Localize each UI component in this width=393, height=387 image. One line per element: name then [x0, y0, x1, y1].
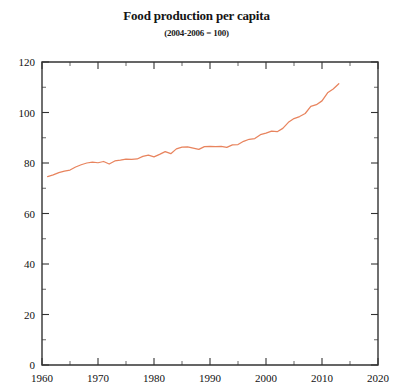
y-minor-ticks	[42, 87, 378, 340]
series-line	[48, 84, 339, 177]
x-tick-label: 1970	[87, 372, 110, 384]
data-series-group	[48, 84, 339, 177]
axis-frame	[42, 62, 378, 365]
y-major-ticks	[42, 62, 378, 365]
x-tick-label: 2020	[367, 372, 390, 384]
y-tick-label: 0	[30, 359, 36, 371]
x-tick-label: 2000	[255, 372, 278, 384]
chart-container: Food production per capita (2004-2006 = …	[0, 0, 393, 387]
x-axis-tick-labels: 1960197019801990200020102020	[31, 372, 390, 384]
x-minor-ticks	[70, 62, 350, 365]
y-tick-label: 100	[19, 107, 36, 119]
y-tick-label: 20	[24, 309, 36, 321]
y-axis-tick-labels: 020406080100120	[19, 56, 36, 371]
x-tick-label: 1980	[143, 372, 166, 384]
y-tick-label: 40	[24, 258, 36, 270]
x-major-ticks	[42, 62, 378, 365]
x-tick-label: 1990	[199, 372, 222, 384]
y-tick-label: 80	[24, 157, 36, 169]
y-tick-label: 120	[19, 56, 36, 68]
x-tick-label: 1960	[31, 372, 54, 384]
x-tick-label: 2010	[311, 372, 334, 384]
plot-area: 020406080100120 196019701980199020002010…	[0, 0, 393, 387]
y-tick-label: 60	[24, 208, 36, 220]
